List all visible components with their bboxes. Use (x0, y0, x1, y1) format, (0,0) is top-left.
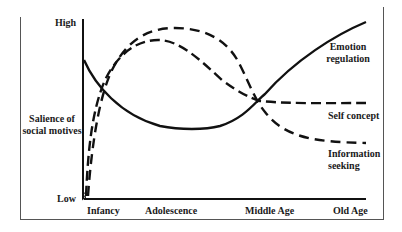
series-label-emotion-line1: Emotion (326, 41, 370, 53)
x-tick-middle-age: Middle Age (245, 205, 294, 217)
series-label-info-line1: Information (328, 148, 380, 160)
x-tick-infancy: Infancy (87, 205, 120, 217)
series-label-info-line2: seeking (328, 160, 360, 172)
series-self-concept (86, 40, 366, 196)
y-tick-high: High (55, 17, 76, 29)
y-axis-label-line2: social motives (20, 125, 84, 137)
x-tick-old-age: Old Age (333, 205, 368, 217)
series-label-emotion-line2: regulation (326, 53, 370, 65)
x-tick-adolescence: Adolescence (145, 205, 197, 217)
y-tick-low: Low (57, 193, 76, 205)
series-emotion-regulation (84, 22, 366, 129)
y-axis-label-line1: Salience of (22, 113, 82, 125)
series-label-self-concept: Self concept (328, 110, 379, 122)
